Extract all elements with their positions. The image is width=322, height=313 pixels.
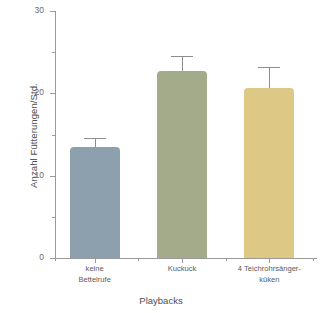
y-tick-30: 30 <box>50 11 55 12</box>
y-axis-spine <box>55 11 56 258</box>
x-tick-minor-2 <box>226 258 227 261</box>
category-label-1: Kuckuck <box>132 264 232 275</box>
y-tick-10: 10 <box>50 176 55 177</box>
error-bar-stem-2 <box>269 67 270 88</box>
x-tick-minor-3 <box>313 258 314 261</box>
y-tick-label-0: 0 <box>39 252 44 262</box>
x-tick-minor-1 <box>138 258 139 261</box>
category-label-line: keine <box>45 264 145 275</box>
category-label-line: küken <box>219 275 319 286</box>
x-tick-0 <box>95 258 96 263</box>
bar-1 <box>157 71 207 258</box>
x-tick-1 <box>182 258 183 263</box>
bar-0 <box>70 147 120 258</box>
y-tick-20: 20 <box>50 93 55 94</box>
category-label-line: Bettelrufe <box>45 275 145 286</box>
y-axis-title: Anzahl Fütterungen/Std. <box>28 51 39 221</box>
x-tick-2 <box>269 258 270 263</box>
y-tick-label-10: 10 <box>35 170 44 180</box>
error-bar-stem-0 <box>95 138 96 147</box>
x-axis-title: Playbacks <box>0 295 322 306</box>
category-label-0: keineBettelrufe <box>45 264 145 285</box>
y-tick-minor-15 <box>52 135 55 136</box>
error-bar-cap-2 <box>258 67 280 68</box>
y-tick-label-20: 20 <box>35 87 44 97</box>
error-bar-cap-0 <box>84 138 106 139</box>
y-tick-label-30: 30 <box>35 5 44 15</box>
bar-chart: Anzahl Fütterungen/Std. 0102030 keineBet… <box>0 0 322 313</box>
y-tick-minor-5 <box>52 217 55 218</box>
y-tick-minor-25 <box>52 52 55 53</box>
x-tick-minor-0 <box>55 258 56 261</box>
category-label-2: 4 Teichrohrsänger-küken <box>219 264 319 285</box>
error-bar-cap-1 <box>171 56 193 57</box>
plot-area: 0102030 <box>55 11 317 258</box>
category-label-line: 4 Teichrohrsänger- <box>219 264 319 275</box>
error-bar-stem-1 <box>182 56 183 71</box>
bar-2 <box>244 88 294 258</box>
category-label-line: Kuckuck <box>132 264 232 275</box>
